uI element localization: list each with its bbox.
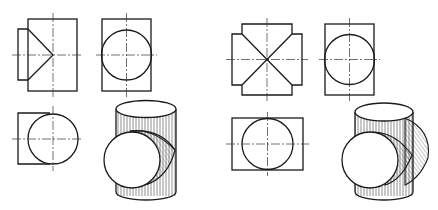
tee-isometric-view (104, 101, 176, 201)
cross-side-view (319, 18, 380, 101)
tee-top-view (12, 106, 83, 171)
cross-top-view (226, 112, 309, 176)
cross-front-view (226, 18, 308, 101)
cross-isometric-view (342, 103, 429, 200)
technical-drawing (0, 0, 438, 210)
tee-front-view (12, 13, 83, 97)
tee-side-view (96, 13, 157, 97)
